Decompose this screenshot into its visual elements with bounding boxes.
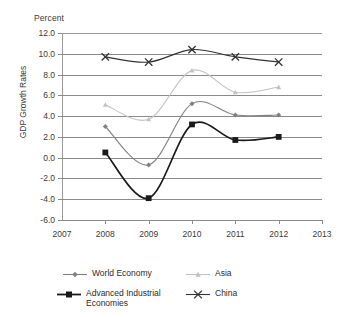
series-line (105, 122, 278, 198)
legend-item[interactable]: Asia (185, 268, 232, 280)
triangle-legend-icon (185, 269, 211, 280)
series-line (105, 101, 278, 165)
square-marker (102, 150, 108, 156)
series-world-economy (103, 101, 281, 167)
triangle-marker (103, 102, 108, 107)
unit-label: Percent (34, 13, 64, 23)
legend-item[interactable]: China (185, 288, 237, 300)
series-line (105, 70, 278, 121)
series-advanced-industrial-economies (102, 122, 281, 202)
y-tick-label: 12.0 (38, 28, 55, 38)
series-china (102, 46, 283, 66)
legend-item[interactable]: World Economy (62, 268, 152, 280)
diamond-legend-icon (62, 269, 88, 280)
square-marker (146, 195, 152, 201)
x-tick-label: 2007 (53, 229, 72, 239)
x-tick-label: 2010 (183, 229, 202, 239)
legend-label: China (215, 288, 237, 298)
x-tick (279, 220, 280, 224)
x-tick-label: 2011 (226, 229, 244, 239)
diamond-marker (276, 113, 281, 118)
y-tick-label: -6.0 (40, 215, 55, 225)
legend-label: World Economy (92, 268, 152, 278)
y-tick-label: 8.0 (43, 70, 55, 80)
series-line (105, 50, 278, 63)
y-tick-label: 0.0 (43, 153, 55, 163)
square-marker (276, 134, 282, 140)
legend-item[interactable]: Advanced Industrial Economies (56, 288, 161, 308)
diamond-marker (146, 162, 151, 167)
x-tick-label: 2013 (313, 229, 332, 239)
series-layer (62, 33, 322, 220)
triangle-marker (146, 117, 151, 122)
y-tick-label: -4.0 (40, 194, 55, 204)
y-axis-title: GDP Growth Rates (18, 32, 28, 172)
plot-area: 12.010.08.06.04.02.00.0-2.0-4.0-6.0 2007… (62, 33, 322, 220)
x-tick-label: 2008 (96, 229, 115, 239)
y-tick (58, 220, 62, 221)
x-tick (149, 220, 150, 224)
series-asia (103, 68, 281, 121)
x-tick-label: 2009 (139, 229, 158, 239)
x-tick (192, 220, 193, 224)
x-tick (322, 220, 323, 224)
square-marker (189, 122, 195, 128)
diamond-marker (72, 272, 77, 277)
y-tick-label: 10.0 (38, 49, 55, 59)
square-marker (232, 137, 238, 143)
gdp-growth-rates-chart: Percent GDP Growth Rates 12.010.08.06.04… (0, 0, 346, 317)
diamond-marker (233, 113, 238, 118)
x-tick (105, 220, 106, 224)
legend-label: Asia (215, 268, 232, 278)
square-marker (66, 292, 72, 298)
square-legend-icon (56, 289, 82, 300)
y-tick-label: 6.0 (43, 90, 55, 100)
y-tick-label: 4.0 (43, 111, 55, 121)
x-legend-icon (185, 289, 211, 300)
y-tick-label: 2.0 (43, 132, 55, 142)
x-tick (235, 220, 236, 224)
y-tick-label: -2.0 (40, 173, 55, 183)
legend-label: Advanced Industrial Economies (86, 288, 161, 308)
x-tick-label: 2012 (269, 229, 288, 239)
